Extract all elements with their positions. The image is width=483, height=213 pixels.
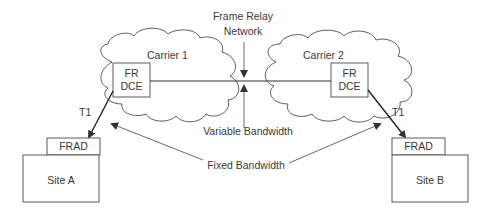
frame-relay-label-line2: Network <box>213 25 273 37</box>
fixed-bandwidth-label: Fixed Bandwidth <box>207 159 285 171</box>
fr-dce-left-label: FR DCE <box>113 67 150 93</box>
carrier-1-label: Carrier 1 <box>147 49 188 61</box>
t1-left-label: T1 <box>79 106 91 118</box>
fr-dce-right-line2: DCE <box>331 80 368 93</box>
carrier-2-label: Carrier 2 <box>303 49 344 61</box>
site-a-label: Site A <box>23 174 99 187</box>
fr-dce-left-line2: DCE <box>113 80 150 93</box>
variable-bandwidth-label: Variable Bandwidth <box>203 125 293 137</box>
fr-dce-right-label: FR DCE <box>331 67 368 93</box>
frame-relay-network-label: Frame Relay Network <box>213 10 273 37</box>
frame-relay-label-line1: Frame Relay <box>213 10 273 22</box>
fr-dce-right-line1: FR <box>331 67 368 80</box>
t1-right-label: T1 <box>392 106 404 118</box>
fixed-bandwidth-arrow-left <box>112 124 203 160</box>
frad-right-label: FRAD <box>392 140 445 153</box>
fr-dce-left-line1: FR <box>113 67 150 80</box>
site-b-label: Site B <box>392 174 468 187</box>
frad-left-label: FRAD <box>47 140 100 153</box>
t1-link-left <box>89 91 113 137</box>
fixed-bandwidth-arrow-right <box>289 124 380 163</box>
